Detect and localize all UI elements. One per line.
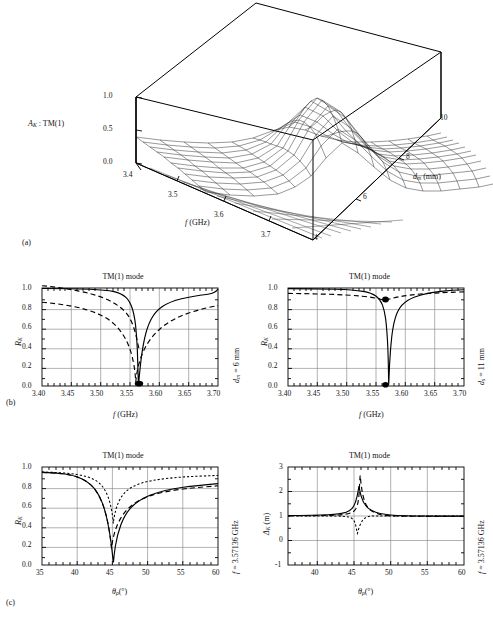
panel-a-ytick-4: 4 [314,233,318,242]
panel-c-left-xtick-50: 50 [142,568,150,577]
panel-b-left-ytick-10: 1.0 [22,283,31,292]
panel-b-left-xtick-350: 3.50 [90,389,103,398]
panel-a: 1.0 0.5 0.0 3.4 3.5 3.6 3.7 4 6 8 10 AK … [0,0,493,250]
minimum-marker [135,381,143,387]
panel-c-left-xtick-55: 55 [177,568,185,577]
panel-b-left-xtick-365: 3.65 [178,389,191,398]
panel-c-right-xtick-50: 50 [385,568,393,577]
panel-c-right-x-axis-label: θρ(°) [358,587,373,596]
panel-a-z-axis-label: AK : TM(1) [28,119,64,128]
panel-c-right-xtick-60: 60 [458,568,466,577]
panel-c-caption: (c) [6,598,15,607]
minor-ticks [42,467,218,565]
panel-b-right-ytick-02: 0.2 [268,361,277,370]
panel-c-right-ytick-m1: -1 [275,560,281,569]
panel-b-right-xtick-360: 3.60 [395,389,408,398]
panel-c-left-ytick-02: 0.2 [22,540,31,549]
panel-b-left-xtick-345: 3.45 [61,389,74,398]
panel-a-ytick-10: 10 [440,113,448,122]
panel-a-xtick-34: 3.4 [123,170,132,179]
panel-c-right-xtick-45: 45 [348,568,356,577]
panel-c-left-ytick-08: 0.8 [22,482,31,491]
gridlines [288,288,464,386]
panel-c-left-ytick-00: 0.0 [22,560,31,569]
curve-dashed [42,286,139,349]
panel-b-right-title: TM(1) mode [246,272,493,281]
panel-b-right-xtick-340: 3.40 [278,389,291,398]
axes-box-3d [136,3,441,240]
panel-b-left-ytick-06: 0.6 [22,322,31,331]
panel-a-xtick-37: 3.7 [261,230,270,239]
figure-root: 1.0 0.5 0.0 3.4 3.5 3.6 3.7 4 6 8 10 AK … [0,0,493,617]
panel-c-right-condition-label: f = 3.57136 GHz [477,520,486,574]
gridlines [42,467,218,565]
panel-a-xtick-35: 3.5 [168,190,177,199]
panel-a-y-axis-label: dm (mm) [413,172,441,181]
curve-solid-c-right [288,486,464,516]
curve-solid-c-left [42,472,218,562]
upper-marker [382,297,389,303]
x-axis-3d [136,163,313,240]
panel-a-surface-plot [0,0,493,250]
panel-c-right-ytick-2: 2 [279,486,283,495]
curve-dotted-c-right [288,516,464,533]
panel-b-left-x-axis-label: f (GHz) [113,410,138,419]
panel-b-right-plot [246,258,493,433]
floor-grid [150,168,403,238]
panel-c-left: TM(1) mode 0.0 0.2 [0,437,246,617]
panel-c-left-y-axis-label: RK [14,516,23,525]
panel-b-right-ytick-06: 0.6 [268,322,277,331]
minimum-marker [382,382,388,388]
panel-a-caption: (a) [22,238,31,247]
curve-dotted-c-left [42,472,218,523]
panel-c-right: TM(1) mode -1 0 [246,437,493,617]
panel-b-right: TM(1) mode [246,258,493,433]
panel-b-caption: (b) [6,398,15,407]
panel-c-left-ytick-06: 0.6 [22,501,31,510]
panel-b-right-xtick-365: 3.65 [424,389,437,398]
panel-c-left-xtick-45: 45 [106,568,114,577]
panel-c-right-ytick-3: 3 [279,462,283,471]
panel-c-left-xtick-35: 35 [36,568,44,577]
panel-b-left-ytick-08: 0.8 [22,303,31,312]
panel-c-left-x-axis-label: θρ(°) [112,587,127,596]
panel-b-right-ytick-00: 0.0 [268,381,277,390]
panel-b-right-xtick-350: 3.50 [336,389,349,398]
panel-b-right-y-axis-label: RK [260,337,269,346]
panel-b-left-xtick-355: 3.55 [120,389,133,398]
panel-b-left-condition-label: dm = 6 mm [232,348,241,383]
panel-a-ztick-0: 0.0 [103,157,112,166]
panel-b-left-plot [0,258,246,433]
panel-a-ytick-8: 8 [406,152,410,161]
panel-b-right-x-axis-label: f (GHz) [359,410,384,419]
panel-c-right-ytick-0: 0 [279,535,283,544]
panel-c-left-xtick-40: 40 [71,568,79,577]
panel-c-right-xtick-40: 40 [311,568,319,577]
panel-b-right-condition-label: ds = 11 mm [477,348,486,385]
panel-c-right-title: TM(1) mode [246,451,493,460]
panel-b-left-xtick-340: 3.40 [32,389,45,398]
panel-a-x-axis-label: f (GHz) [185,218,210,227]
panel-c-left-xtick-60: 60 [212,568,220,577]
panel-c-right-xtick-55: 55 [421,568,429,577]
panel-b-right-xtick-345: 3.45 [307,389,320,398]
panel-c-right-y-axis-label: ΔK (m) [262,513,271,535]
curve-dashed-c-right [288,476,464,517]
panel-a-ytick-6: 6 [363,192,367,201]
z-axis [136,97,142,164]
plot-frame [42,467,218,565]
panel-a-xtick-36: 3.6 [214,210,223,219]
panel-b-right-xtick-355: 3.55 [366,389,379,398]
panel-b-right-ytick-10: 1.0 [268,283,277,292]
panel-b-left-y-axis-label: RK [14,337,23,346]
panel-a-ztick-1: 1.0 [103,91,112,100]
panel-a-ztick-05: 0.5 [103,124,112,133]
panel-b-left-ytick-00: 0.0 [22,381,31,390]
panel-b-left-ytick-02: 0.2 [22,361,31,370]
panel-c-right-ytick-1: 1 [279,511,283,520]
panel-b-left-title: TM(1) mode [0,272,246,281]
panel-b-left-xtick-370: 3.70 [207,389,220,398]
panel-c-left-ytick-10: 1.0 [22,462,31,471]
panel-c-left-title: TM(1) mode [0,451,246,460]
panel-b-right-xtick-370: 3.70 [453,389,466,398]
